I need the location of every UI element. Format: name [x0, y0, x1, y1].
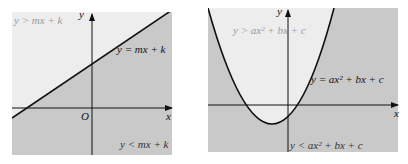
- y-axis-label: y: [277, 5, 282, 17]
- x-axis-label: x: [166, 110, 171, 122]
- line-label: y = mx + k: [117, 43, 165, 55]
- x-axis-label: x: [394, 107, 399, 119]
- region-above-label: y > mx + k: [14, 14, 62, 26]
- linear-inequality-panel: [12, 10, 172, 155]
- region-below-label: y < mx + k: [120, 138, 168, 150]
- y-axis-label: y: [79, 8, 84, 20]
- curve-label: y = ax² + bx + c: [311, 73, 384, 85]
- region-below-label: y < ax² + bx + c: [290, 139, 363, 151]
- region-above-label: y > ax² + bx + c: [233, 24, 306, 36]
- origin-label: O: [81, 110, 89, 122]
